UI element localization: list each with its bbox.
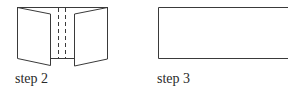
step-2-right-flap: [75, 8, 108, 67]
step-2-left-flap: [18, 8, 51, 66]
step-2-illustration: [17, 8, 108, 67]
step-3-rectangle: [159, 8, 289, 59]
step-3-label: step 3: [157, 72, 190, 86]
step-2-label: step 2: [15, 72, 48, 86]
step-3-illustration: [159, 8, 289, 59]
